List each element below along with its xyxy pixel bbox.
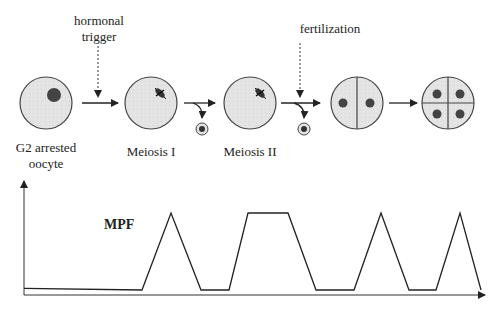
nucleus-icon — [456, 110, 465, 119]
mpf-line — [24, 213, 481, 290]
cell-four-cell — [422, 77, 474, 129]
diagram-canvas: hormonal trigger fertilization G2 arrest… — [0, 0, 499, 312]
hormonal-trigger: hormonal trigger — [74, 13, 124, 97]
meiosis2-label: Meiosis II — [223, 144, 276, 159]
oocyte-circle — [20, 77, 72, 129]
nucleus-icon — [433, 90, 442, 99]
oocyte-circle — [224, 77, 276, 129]
nucleus-icon — [433, 110, 442, 119]
arrow-polar-body-2 — [281, 103, 320, 135]
nucleus-icon — [366, 99, 375, 108]
mpf-series-label: MPF — [104, 217, 134, 232]
oocyte-circle — [125, 77, 177, 129]
cell-meiosis-2: Meiosis II — [223, 77, 276, 159]
nucleus-icon — [456, 90, 465, 99]
polar-body-nucleus-icon — [199, 126, 205, 132]
g2-label-line2: oocyte — [29, 156, 64, 171]
hormonal-trigger-label-line1: hormonal — [74, 13, 124, 28]
arrow-polar-body-1 — [184, 103, 215, 135]
cell-g2-oocyte: G2 arrested oocyte — [16, 77, 77, 171]
hormonal-trigger-label-line2: trigger — [82, 29, 117, 44]
meiosis1-label: Meiosis I — [127, 144, 176, 159]
cell-meiosis-1: Meiosis I — [125, 77, 177, 159]
g2-label-line1: G2 arrested — [16, 140, 77, 155]
fertilization-label: fertilization — [300, 21, 361, 36]
curved-arrow-icon — [294, 103, 304, 118]
mpf-chart: MPF — [24, 181, 485, 295]
nucleus-icon — [339, 99, 348, 108]
cell-two-cell — [331, 77, 383, 129]
polar-body-nucleus-icon — [301, 126, 307, 132]
curved-arrow-icon — [193, 103, 202, 118]
nucleus-icon — [47, 88, 61, 102]
